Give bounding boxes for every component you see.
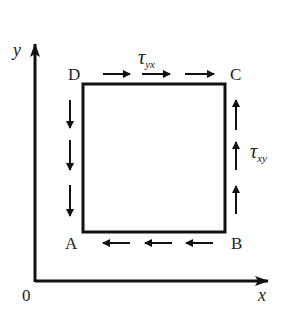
corner-label-a: A [65, 234, 78, 253]
corner-label-d: D [68, 65, 80, 84]
x-axis-label: x [257, 285, 266, 305]
element-square [83, 84, 225, 232]
tau-xy-label: τxy [250, 140, 267, 164]
corner-label-b: B [231, 234, 242, 253]
tau-yx-label: τyx [138, 46, 155, 70]
y-axis-label: y [11, 40, 21, 60]
origin-label: 0 [22, 286, 31, 305]
shear-stress-diagram: y x 0 D C A B τyx τxy [0, 0, 291, 319]
corner-label-c: C [230, 65, 241, 84]
